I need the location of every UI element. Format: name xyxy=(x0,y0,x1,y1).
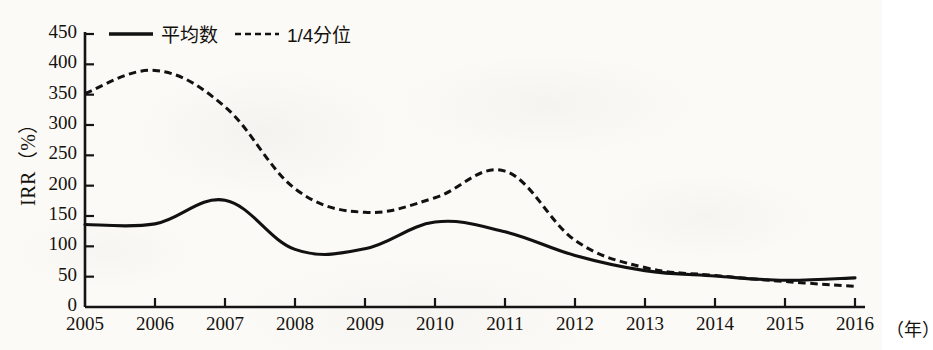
x-axis-unit-label: （年） xyxy=(886,315,933,341)
y-axis-ticks xyxy=(85,34,94,277)
series-line-quartile xyxy=(85,70,855,286)
axis-lines xyxy=(85,32,865,307)
x-axis-ticks xyxy=(155,298,855,307)
series-line-mean xyxy=(85,200,855,281)
